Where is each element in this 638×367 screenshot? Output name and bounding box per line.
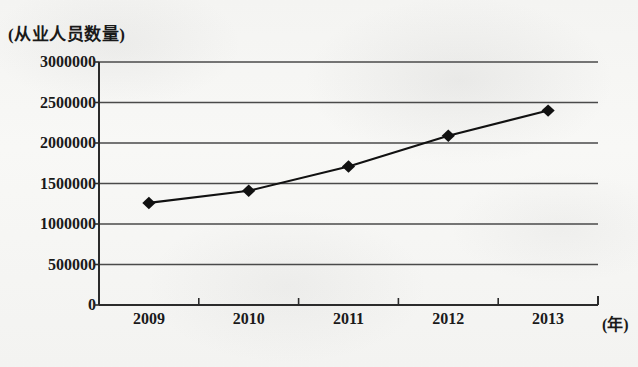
data-point-marker xyxy=(342,160,355,172)
data-point-marker xyxy=(242,185,255,197)
plot-area xyxy=(0,0,638,367)
data-point-marker xyxy=(142,197,155,209)
data-line xyxy=(149,111,548,203)
x-axis-ticks xyxy=(199,298,498,305)
data-markers xyxy=(142,104,554,209)
line-chart: (从业人员数量) 0500000100000015000002000000250… xyxy=(0,0,638,367)
data-point-marker xyxy=(542,104,555,116)
data-point-marker xyxy=(442,130,455,142)
